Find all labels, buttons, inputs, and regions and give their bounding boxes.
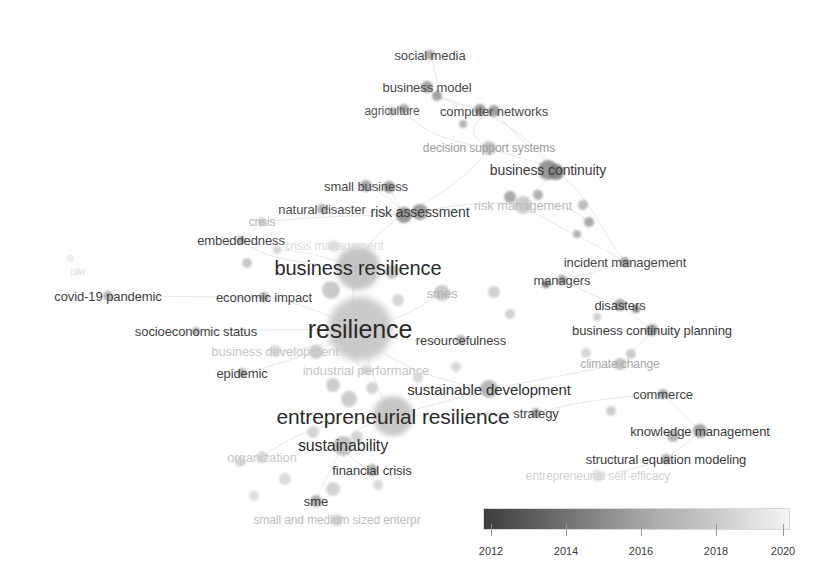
legend-gradient-bar [483,508,790,530]
year-color-legend: 20122014201620182020 [0,0,835,580]
legend-tick-mark [566,524,567,536]
legend-tick-mark [716,524,717,536]
legend-tick-label: 2020 [771,545,795,557]
legend-tick-label: 2012 [479,545,503,557]
network-map-canvas[interactable]: isp/wsocial mediabusiness modelagricultu… [0,0,835,580]
legend-tick-label: 2014 [554,545,578,557]
legend-tick-mark [491,524,492,536]
legend-tick-mark [783,524,784,536]
legend-tick-label: 2016 [629,545,653,557]
legend-tick-label: 2018 [704,545,728,557]
legend-tick-mark [641,524,642,536]
